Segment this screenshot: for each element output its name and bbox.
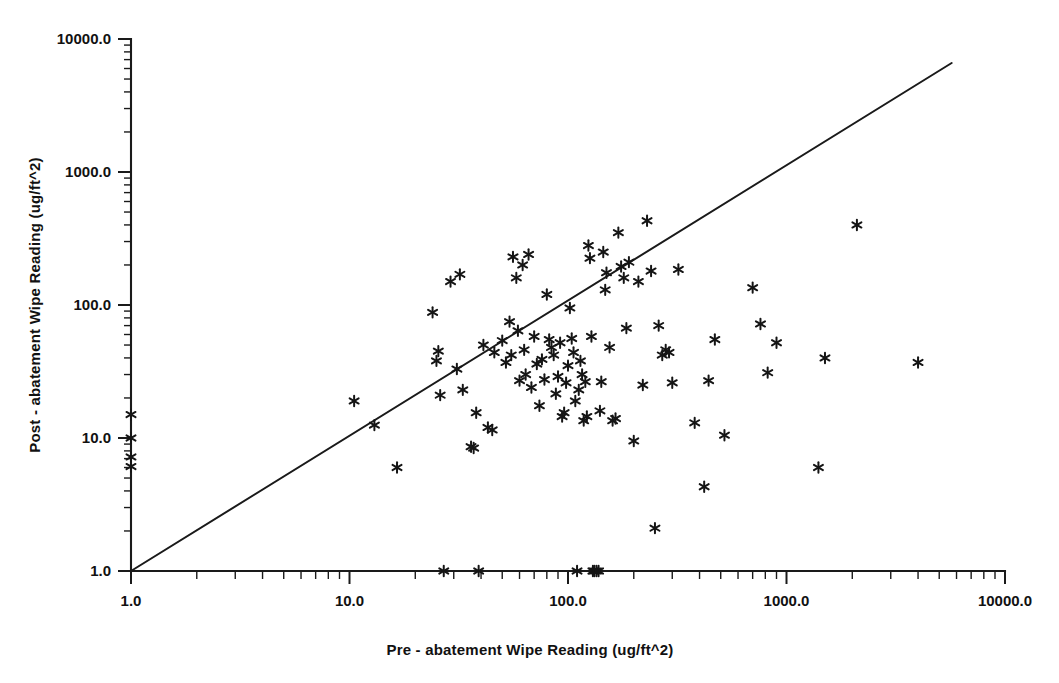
data-point (569, 347, 578, 357)
chart-canvas: 1.010.0100.01000.010000.0 1.010.0100.010… (0, 0, 1059, 683)
data-point (647, 266, 656, 276)
data-point (748, 282, 757, 292)
x-tick-label: 10.0 (335, 592, 364, 609)
x-axis-tick-labels: 1.010.0100.01000.010000.0 (121, 592, 1033, 609)
x-axis-ticks (131, 571, 1005, 584)
data-point (520, 345, 529, 355)
data-point (479, 340, 488, 350)
data-point (614, 227, 623, 237)
data-point (507, 350, 516, 360)
data-point (432, 356, 441, 366)
data-point (584, 240, 593, 250)
y-tick-label: 1.0 (90, 562, 111, 579)
data-point (634, 276, 643, 286)
data-point (704, 375, 713, 385)
data-point (452, 364, 461, 374)
data-point (436, 390, 445, 400)
data-point (574, 385, 583, 395)
data-point (619, 273, 628, 283)
data-point (914, 357, 923, 367)
data-point (605, 342, 614, 352)
data-point-markers (126, 216, 922, 577)
scatter-plot-figure: 1.010.0100.01000.010000.0 1.010.0100.010… (0, 0, 1059, 683)
y-tick-label: 100.0 (73, 296, 111, 313)
data-point (650, 523, 659, 533)
data-point (518, 260, 527, 270)
identity-reference-line (131, 63, 952, 571)
y-tick-label: 1000.0 (65, 163, 111, 180)
data-point (350, 396, 359, 406)
data-point (643, 216, 652, 226)
identity-line (131, 63, 952, 571)
data-point (563, 360, 572, 370)
y-axis-tick-labels: 1.010.0100.01000.010000.0 (57, 30, 111, 579)
y-axis-title: Post - abatement Wipe Reading (ug/ft^2) (26, 157, 43, 453)
data-point (542, 289, 551, 299)
data-point (700, 482, 709, 492)
data-point (458, 385, 467, 395)
data-point (599, 247, 608, 257)
data-point (763, 367, 772, 377)
data-point (720, 430, 729, 440)
data-point (428, 307, 437, 317)
data-point (654, 320, 663, 330)
data-point (597, 377, 606, 387)
data-point (551, 389, 560, 399)
data-point (472, 407, 481, 417)
axes-layer (131, 39, 1005, 571)
data-point (852, 220, 861, 230)
data-point (814, 462, 823, 472)
data-point (585, 253, 594, 263)
data-point (587, 331, 596, 341)
data-point (601, 285, 610, 295)
data-point (524, 249, 533, 259)
data-point (622, 323, 631, 333)
y-tick-label: 10000.0 (57, 30, 111, 47)
data-point (565, 303, 574, 313)
data-point (540, 374, 549, 384)
data-point (393, 462, 402, 472)
y-tick-label: 10.0 (82, 429, 111, 446)
data-point (629, 436, 638, 446)
data-point (512, 273, 521, 283)
x-tick-label: 100.0 (549, 592, 587, 609)
data-point (501, 357, 510, 367)
data-point (595, 406, 604, 416)
data-point (668, 378, 677, 388)
data-point (638, 380, 647, 390)
x-axis-title: Pre - abatement Wipe Reading (ug/ft^2) (386, 641, 673, 658)
data-point (567, 333, 576, 343)
x-tick-label: 10000.0 (978, 592, 1032, 609)
data-point (126, 461, 135, 471)
x-tick-label: 1000.0 (764, 592, 810, 609)
data-point (602, 267, 611, 277)
data-point (690, 418, 699, 428)
data-point (527, 382, 536, 392)
data-point (530, 331, 539, 341)
data-point (710, 334, 719, 344)
data-point (576, 356, 585, 366)
data-point (556, 338, 565, 348)
data-point (126, 409, 135, 419)
data-point (508, 252, 517, 262)
data-point (505, 316, 514, 326)
data-point (455, 269, 464, 279)
data-point (772, 338, 781, 348)
data-point (571, 396, 580, 406)
data-point (535, 400, 544, 410)
data-point (674, 264, 683, 274)
x-tick-label: 1.0 (121, 592, 142, 609)
data-point (820, 353, 829, 363)
data-point (446, 276, 455, 286)
data-point (756, 319, 765, 329)
data-point (434, 346, 443, 356)
y-axis-ticks (118, 39, 131, 571)
